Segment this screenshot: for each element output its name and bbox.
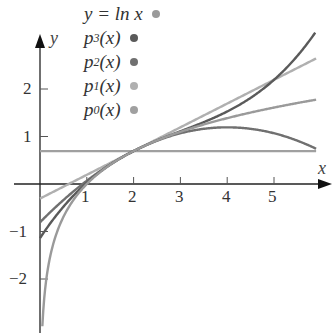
legend-label: p [84, 99, 94, 121]
y-tick-2: 2 [23, 79, 32, 99]
y-axis-arrow-icon [35, 34, 45, 48]
x-tick-3: 3 [175, 187, 184, 207]
legend-label-tail: (x) [100, 75, 121, 97]
legend-item-lnx: y = ln x [84, 2, 160, 26]
legend-dot-icon [130, 34, 138, 42]
legend-dot-icon [130, 58, 138, 66]
x-axis-name: x [318, 158, 326, 179]
legend-item-p2: p2(x) [84, 50, 160, 74]
legend-item-p3: p3(x) [84, 26, 160, 50]
y-tick-neg1: −1 [9, 222, 27, 242]
legend-label-tail: (x) [100, 51, 121, 73]
legend-label: y = ln x [84, 3, 143, 25]
p2-curve [40, 127, 316, 222]
legend-label-tail: (x) [100, 27, 121, 49]
legend-dot-icon [130, 106, 138, 114]
plot-area [0, 0, 333, 335]
x-tick-2: 2 [128, 187, 137, 207]
legend-dot-icon [152, 10, 160, 18]
y-tick-1: 1 [23, 127, 32, 147]
legend-label: p [84, 75, 94, 97]
legend-item-p1: p1(x) [84, 74, 160, 98]
x-tick-1: 1 [81, 187, 90, 207]
x-tick-4: 4 [222, 187, 231, 207]
legend-label-tail: (x) [100, 99, 121, 121]
legend-label: p [84, 27, 94, 49]
y-axis-name: y [50, 28, 58, 49]
legend-label: p [84, 51, 94, 73]
p3-curve [40, 33, 315, 238]
y-tick-neg2: −2 [9, 269, 27, 289]
legend-item-p0: p0(x) [84, 98, 160, 122]
x-tick-5: 5 [268, 187, 277, 207]
legend: y = ln x p3(x) p2(x) p1(x) p0(x) [84, 2, 160, 122]
x-axis-arrow-icon [318, 179, 332, 189]
legend-dot-icon [130, 82, 138, 90]
